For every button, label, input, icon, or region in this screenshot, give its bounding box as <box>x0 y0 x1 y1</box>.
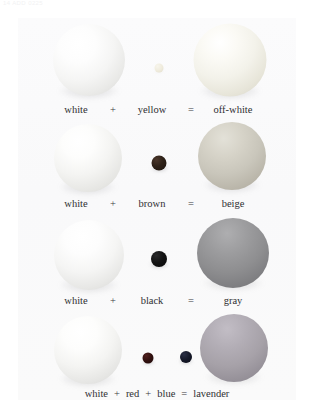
equation-rows: white + yellow = off-white <box>18 18 296 400</box>
equation-off-white: white + yellow = off-white <box>18 104 296 115</box>
term-label-white: white <box>82 388 111 399</box>
term-label-gray: gray <box>202 295 264 306</box>
sphere-red-pigment <box>143 353 154 364</box>
sphere-body <box>200 314 268 382</box>
operator-equals: = <box>180 198 202 209</box>
top-caption: 14 ADD 0225 <box>3 0 43 6</box>
term-label-yellow: yellow <box>124 104 180 115</box>
sphere-body <box>54 124 122 192</box>
term-label-white: white <box>50 198 102 209</box>
operator-plus: + <box>102 295 124 306</box>
row-off-white: white + yellow = off-white <box>18 18 296 118</box>
operator-plus-2: + <box>142 388 154 399</box>
equation-beige: white + brown = beige <box>18 198 296 209</box>
operator-equals: = <box>180 295 202 306</box>
term-label-white: white <box>50 104 102 115</box>
figure-root: 14 ADD 0225 <box>0 0 314 420</box>
sphere-brown-pigment <box>152 156 167 171</box>
equation-gray: white + black = gray <box>18 295 296 306</box>
sphere-body <box>194 24 267 97</box>
term-label-white: white <box>50 295 102 306</box>
sphere-body <box>155 64 164 73</box>
term-label-black: black <box>124 295 180 306</box>
row-lavender: white + red + blue = lavender <box>18 310 296 400</box>
operator-plus-1: + <box>111 388 123 399</box>
sphere-lavender-result <box>200 314 268 382</box>
sphere-white-1 <box>53 24 125 96</box>
sphere-body <box>198 122 266 190</box>
sphere-blue-pigment <box>180 351 192 363</box>
sphere-body <box>180 351 192 363</box>
equation-lavender: white + red + blue = lavender <box>18 388 296 399</box>
operator-equals: = <box>178 388 190 399</box>
sphere-black-pigment <box>151 251 167 267</box>
sphere-yellow-pigment <box>155 64 164 73</box>
sphere-white-3 <box>54 220 124 290</box>
row-off-white-art <box>18 18 296 96</box>
sphere-white-2 <box>54 124 122 192</box>
sphere-gray-result <box>197 218 269 288</box>
sphere-body <box>152 156 167 171</box>
sphere-white-4 <box>54 316 122 384</box>
operator-plus: + <box>102 104 124 115</box>
row-beige: white + brown = beige <box>18 118 296 213</box>
sphere-body <box>197 218 269 288</box>
sphere-body <box>151 251 167 267</box>
sphere-body <box>143 353 154 364</box>
term-label-red: red <box>123 388 142 399</box>
sphere-body <box>54 316 122 384</box>
sphere-beige-result <box>198 122 266 190</box>
term-label-brown: brown <box>124 198 180 209</box>
sphere-off-white-result <box>194 24 267 97</box>
term-label-lavender: lavender <box>190 388 232 399</box>
operator-equals: = <box>180 104 202 115</box>
term-label-beige: beige <box>202 198 264 209</box>
term-label-blue: blue <box>154 388 178 399</box>
term-label-off-white: off-white <box>202 104 264 115</box>
row-gray: white + black = gray <box>18 213 296 310</box>
sphere-body <box>54 220 124 290</box>
row-beige-art <box>18 118 296 190</box>
figure-plate: white + yellow = off-white <box>18 18 296 400</box>
operator-plus: + <box>102 198 124 209</box>
row-gray-art <box>18 213 296 287</box>
row-lavender-art <box>18 310 296 382</box>
sphere-body <box>53 24 125 96</box>
